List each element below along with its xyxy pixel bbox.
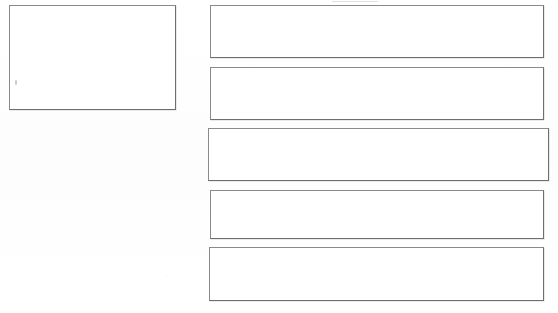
empty-box-row-4[interactable] — [210, 190, 544, 239]
empty-box-row-1[interactable] — [210, 5, 544, 58]
scanned-page — [0, 0, 558, 313]
pencil-speck-icon — [15, 80, 17, 85]
empty-box-row-2[interactable] — [210, 67, 544, 120]
scan-edge-artifact-icon — [332, 1, 378, 2]
empty-box-row-5[interactable] — [209, 247, 544, 301]
large-empty-box[interactable] — [9, 5, 176, 110]
empty-box-row-3[interactable] — [208, 128, 549, 181]
